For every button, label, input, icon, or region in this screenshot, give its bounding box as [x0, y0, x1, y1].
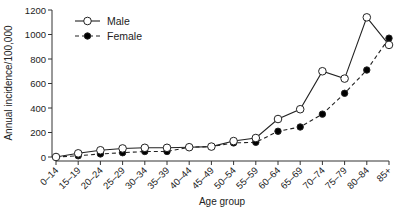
- legend-label: Female: [107, 30, 142, 42]
- data-point: [385, 41, 393, 49]
- data-point: [319, 67, 327, 75]
- legend: MaleFemale: [75, 15, 142, 42]
- data-point: [163, 144, 171, 152]
- legend-item-male: Male: [75, 15, 130, 27]
- data-point: [52, 153, 60, 161]
- plot-area: [52, 14, 393, 161]
- y-tick-label: 1200: [25, 5, 46, 16]
- data-point: [319, 111, 325, 117]
- data-point: [141, 144, 149, 152]
- x-tick-label: 85+: [374, 164, 393, 183]
- y-tick-label: 400: [30, 103, 46, 114]
- y-tick-label: 1000: [25, 29, 46, 40]
- x-tick-label: 45–49: [189, 165, 215, 191]
- data-point: [119, 145, 127, 153]
- y-axis-title: Annual incidence/100,000: [3, 25, 14, 141]
- data-point: [363, 14, 371, 22]
- open-circle-marker-icon: [84, 17, 92, 25]
- data-point: [364, 67, 370, 73]
- data-point: [274, 115, 282, 123]
- x-tick-label: 25–29: [101, 165, 127, 191]
- data-point: [386, 35, 392, 41]
- data-point: [230, 137, 238, 145]
- x-tick-label: 65–69: [278, 165, 304, 191]
- x-tick-label: 80–84: [345, 165, 371, 191]
- data-point: [296, 105, 304, 113]
- legend-label: Male: [107, 15, 130, 27]
- series-male: [52, 14, 393, 161]
- y-tick-label: 800: [30, 54, 46, 65]
- x-tick-label: 20–24: [78, 165, 104, 191]
- data-point: [97, 146, 105, 154]
- x-tick-label: 35–39: [145, 165, 171, 191]
- data-point: [297, 124, 303, 130]
- data-point: [208, 143, 216, 151]
- data-point: [341, 75, 349, 83]
- x-tick-label: 40–44: [167, 165, 193, 191]
- x-tick-label: 55–59: [234, 165, 260, 191]
- data-point: [275, 128, 281, 134]
- x-axis: 0–1415–1920–2425–2930–3435–3940–4445–495…: [38, 161, 394, 191]
- y-tick-label: 0: [41, 152, 46, 163]
- x-tick-label: 50–54: [212, 165, 238, 191]
- x-axis-title: Age group: [199, 196, 246, 207]
- data-point: [252, 134, 260, 142]
- data-point: [74, 150, 82, 158]
- x-tick-label: 70–74: [300, 165, 326, 191]
- y-axis: 020040060080010001200: [25, 5, 52, 163]
- x-tick-label: 30–34: [123, 165, 149, 191]
- series-female: [53, 35, 392, 160]
- x-tick-label: 75–79: [323, 165, 349, 191]
- legend-item-female: Female: [75, 30, 142, 42]
- y-tick-label: 200: [30, 127, 46, 138]
- line-chart: 020040060080010001200 0–1415–1920–2425–2…: [0, 0, 400, 211]
- y-tick-label: 600: [30, 78, 46, 89]
- x-tick-label: 60–64: [256, 165, 282, 191]
- x-tick-label: 15–19: [56, 165, 82, 191]
- filled-circle-marker-icon: [84, 33, 90, 39]
- data-point: [341, 90, 347, 96]
- data-point: [185, 143, 193, 151]
